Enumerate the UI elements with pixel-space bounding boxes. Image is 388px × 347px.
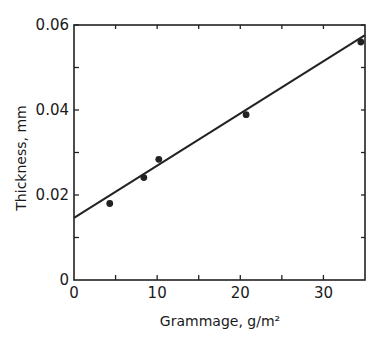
y-tick-label: 0	[59, 271, 69, 289]
x-tick-label: 0	[69, 284, 79, 302]
y-tick-label: 0.02	[36, 186, 69, 204]
x-tick-label: 10	[148, 284, 167, 302]
y-axis-label: Thickness, mm	[13, 105, 29, 211]
thickness-vs-grammage-chart: 010203000.020.040.06 Grammage, g/m² Thic…	[0, 0, 388, 347]
y-tick-label: 0.06	[36, 16, 69, 34]
linear-fit-line	[74, 35, 365, 218]
data-point	[155, 156, 162, 163]
data-series	[74, 35, 365, 218]
y-tick-label: 0.04	[36, 101, 69, 119]
tick-labels: 010203000.020.040.06	[36, 16, 333, 302]
x-tick-label: 20	[231, 284, 250, 302]
data-point	[106, 200, 113, 207]
x-axis-label: Grammage, g/m²	[160, 313, 280, 329]
x-tick-label: 30	[314, 284, 333, 302]
